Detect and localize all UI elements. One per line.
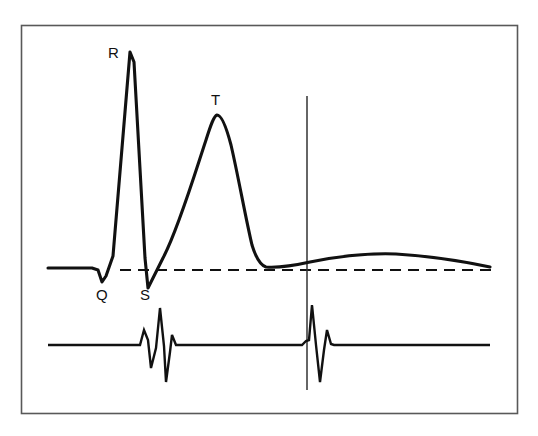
ecg-waveform-canvas — [0, 0, 538, 436]
figure-border — [22, 26, 518, 414]
q-wave-label: Q — [96, 287, 108, 302]
s-wave-label: S — [140, 287, 150, 302]
ecg-diagram-figure: R T Q S — [0, 0, 538, 436]
r-wave-label: R — [108, 45, 119, 60]
t-wave-label: T — [211, 92, 220, 107]
